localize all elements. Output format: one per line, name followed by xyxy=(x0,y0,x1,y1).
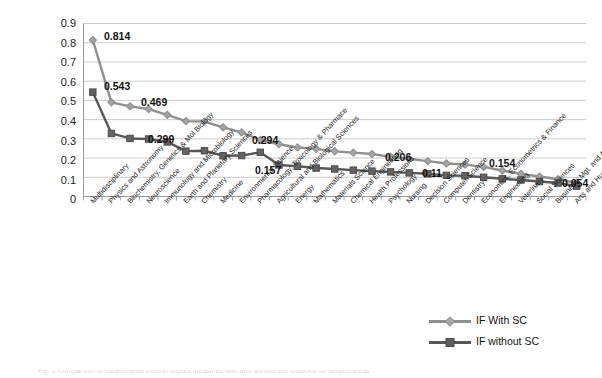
data-label-7: 0.11 xyxy=(422,168,442,179)
legend-item-if-without-sc[interactable]: IF without SC xyxy=(428,333,598,354)
x-axis-labels: MultidisciplinaryPhysics and AstronomyBi… xyxy=(0,198,602,308)
data-label-4: 0.294 xyxy=(252,135,278,146)
data-label-6: 0.206 xyxy=(385,152,411,163)
y-tick-0: 0.9 xyxy=(42,18,76,29)
y-tick-4: 0.5 xyxy=(42,96,76,107)
y-tick-6: 0.3 xyxy=(42,136,76,147)
y-tick-3: 0.6 xyxy=(42,77,76,88)
figure-caption: Fig. 1 Comparison of subject-level citat… xyxy=(38,370,583,376)
legend: IF With SC IF without SC xyxy=(428,312,598,354)
legend-marker-diamond-icon xyxy=(428,316,472,327)
y-tick-5: 0.4 xyxy=(42,116,76,127)
legend-item-if-with-sc[interactable]: IF With SC xyxy=(428,312,598,333)
legend-label-if-without-sc: IF without SC xyxy=(476,335,539,348)
figure-caption-text: Fig. 1 Comparison of subject-level citat… xyxy=(38,370,583,374)
data-label-3: 0.299 xyxy=(148,134,174,145)
y-tick-8: 0.1 xyxy=(42,175,76,186)
legend-marker-square-icon xyxy=(428,337,472,348)
data-label-2: 0.469 xyxy=(141,97,167,108)
chart-root: 0.9 0.8 0.7 0.6 0.5 0.4 0.3 0.2 0.1 0 Mu… xyxy=(0,0,602,378)
data-label-0: 0.814 xyxy=(104,31,130,42)
data-label-5: 0.157 xyxy=(255,165,281,176)
y-tick-7: 0.2 xyxy=(42,155,76,166)
data-label-9: 0.054 xyxy=(562,178,588,189)
y-tick-2: 0.7 xyxy=(42,57,76,68)
data-label-8: 0.154 xyxy=(489,158,515,169)
y-tick-1: 0.8 xyxy=(42,38,76,49)
data-label-1: 0.543 xyxy=(104,81,130,92)
legend-label-if-with-sc: IF With SC xyxy=(476,314,527,327)
